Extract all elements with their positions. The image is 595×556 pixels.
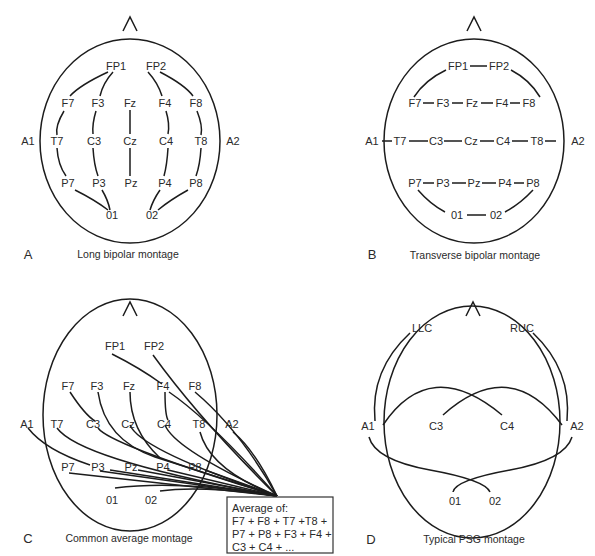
panel-letter: D (366, 532, 375, 547)
panel-b-transverse-bipolar: FP1 FP2 F7 F3 Fz F4 F8 A1 T7 C3 Cz C4 T8… (365, 17, 584, 262)
electrode-f7: F7 (409, 97, 422, 109)
electrode-c4: C4 (159, 135, 173, 147)
head-outline (43, 299, 217, 531)
electrode-p7: P7 (61, 177, 74, 189)
electrode-p7: P7 (408, 177, 421, 189)
electrode-fp2: FP2 (144, 340, 164, 352)
electrode-t7: T7 (51, 418, 64, 430)
electrode-t8: T8 (531, 135, 544, 147)
electrode-p3: P3 (91, 461, 104, 473)
electrode-pz: Pz (125, 461, 138, 473)
electrode-fp1: FP1 (448, 60, 468, 72)
average-box-line-2: F7 + F8 + T7 +T8 + (232, 515, 327, 527)
electrode-fp2: FP2 (489, 60, 509, 72)
electrode-a2: A2 (226, 135, 239, 147)
electrode-o1: 01 (106, 494, 118, 506)
electrode-fz: Fz (124, 97, 136, 109)
average-reference-box: Average of: F7 + F8 + T7 +T8 + P7 + P8 +… (227, 497, 333, 553)
electrode-a1: A1 (365, 135, 378, 147)
panel-letter: A (24, 247, 33, 262)
electrode-c3: C3 (86, 418, 100, 430)
electrode-o2: 02 (490, 209, 502, 221)
electrode-c3: C3 (87, 135, 101, 147)
electrode-fp1: FP1 (105, 340, 125, 352)
electrode-fp2: FP2 (146, 60, 166, 72)
electrode-a2: A2 (571, 135, 584, 147)
electrode-a1: A1 (20, 418, 33, 430)
electrode-pz: Pz (468, 177, 481, 189)
electrode-cz: Cz (121, 418, 134, 430)
panel-c-common-average: FP1 FP2 F7 F3 Fz F4 F8 A1 T7 C3 Cz C4 T8… (20, 299, 333, 553)
electrode-f8: F8 (523, 97, 536, 109)
electrode-c4: C4 (500, 420, 514, 432)
average-reference-wires (28, 354, 277, 496)
panel-d-psg: LLC RUC A1 C3 C4 A2 01 02 D Typical PSG … (361, 302, 583, 547)
panel-caption: Common average montage (65, 532, 192, 544)
electrode-a1: A1 (21, 135, 34, 147)
electrode-o2: 02 (145, 494, 157, 506)
electrode-cz: Cz (464, 135, 477, 147)
average-box-line-3: P7 + P8 + F3 + F4 + (232, 528, 332, 540)
electrode-p8: P8 (188, 461, 201, 473)
electrode-c3: C3 (429, 135, 443, 147)
nose-marker-icon (123, 302, 137, 316)
electrode-p3: P3 (436, 177, 449, 189)
panel-caption: Transverse bipolar montage (410, 249, 541, 261)
electrode-p4: P4 (158, 177, 171, 189)
average-box-line-1: Average of: (232, 502, 288, 514)
electrode-fz: Fz (123, 380, 135, 392)
electrode-p7: P7 (61, 461, 74, 473)
electrode-fp1: FP1 (106, 60, 126, 72)
nose-marker-icon (123, 17, 137, 31)
electrode-t8: T8 (193, 418, 206, 430)
eeg-montage-figure: FP1 FP2 F7 F3 Fz F4 F8 A1 T7 C3 Cz C4 T8… (0, 0, 595, 556)
electrode-f4: F4 (496, 97, 509, 109)
electrode-f3: F3 (92, 97, 105, 109)
electrode-a2: A2 (570, 420, 583, 432)
wire-o2-a1 (369, 437, 490, 492)
chain-occipital (418, 190, 533, 215)
electrode-p8: P8 (526, 177, 539, 189)
electrode-o2: 02 (146, 209, 158, 221)
electrode-a2: A2 (225, 418, 238, 430)
nose-marker-icon (467, 17, 481, 31)
electrode-f8: F8 (190, 97, 203, 109)
electrode-p4: P4 (498, 177, 511, 189)
electrode-llc: LLC (412, 322, 432, 334)
electrode-o1: 01 (106, 209, 118, 221)
electrode-f7: F7 (62, 380, 75, 392)
electrode-p3: P3 (92, 177, 105, 189)
electrode-fz: Fz (466, 97, 478, 109)
electrode-cz: Cz (123, 135, 136, 147)
electrode-p8: P8 (189, 177, 202, 189)
electrode-c3: C3 (429, 420, 443, 432)
chain-frontopolar (414, 66, 540, 97)
panel-caption: Long bipolar montage (77, 248, 179, 260)
nose-marker-icon (466, 302, 480, 316)
electrode-pz: Pz (125, 177, 138, 189)
electrode-t8: T8 (195, 135, 208, 147)
electrode-o2: 02 (489, 495, 501, 507)
electrode-a1: A1 (361, 420, 374, 432)
electrode-f3: F3 (91, 380, 104, 392)
electrode-c4: C4 (157, 418, 171, 430)
panel-caption: Typical PSG montage (423, 533, 525, 545)
electrode-f7: F7 (62, 97, 75, 109)
electrode-o1: 01 (451, 209, 463, 221)
panel-letter: B (368, 247, 377, 262)
electrode-t7: T7 (394, 135, 407, 147)
electrode-f4: F4 (159, 97, 172, 109)
head-outline (384, 306, 560, 538)
electrode-t7: T7 (51, 135, 64, 147)
electrode-f4: F4 (157, 380, 170, 392)
panel-a-long-bipolar: FP1 FP2 F7 F3 Fz F4 F8 A1 T7 C3 Cz C4 T8… (21, 17, 239, 262)
electrode-ruc: RUC (510, 322, 534, 334)
electrode-f3: F3 (437, 97, 450, 109)
electrode-p4: P4 (156, 461, 169, 473)
electrode-f8: F8 (189, 380, 202, 392)
electrode-c4: C4 (496, 135, 510, 147)
electrode-o1: 01 (449, 495, 461, 507)
average-box-line-4: C3 + C4 + ... (232, 541, 294, 553)
panel-letter: C (23, 531, 32, 546)
